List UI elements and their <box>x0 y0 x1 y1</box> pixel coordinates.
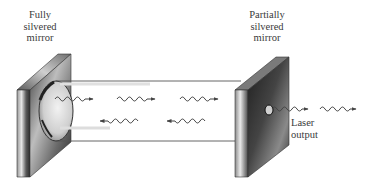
output-aperture <box>265 105 273 115</box>
rightward-photon-waves <box>55 97 218 101</box>
wave-arrow-icon <box>180 97 218 101</box>
fully-silvered-mirror <box>17 54 73 177</box>
wave-arrow-icon <box>100 119 138 123</box>
leftward-photon-waves <box>100 119 205 123</box>
wave-arrow-icon <box>167 119 205 123</box>
partially-silvered-mirror <box>235 57 289 177</box>
wave-arrow-icon <box>117 97 155 101</box>
laser-diagram <box>0 0 389 186</box>
gain-cylinder <box>56 81 241 141</box>
wave-arrow-icon <box>320 107 356 111</box>
